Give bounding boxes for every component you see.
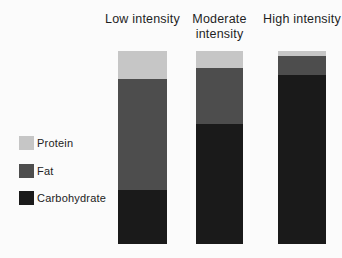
legend-label-carbohydrate: Carbohydrate bbox=[37, 192, 106, 204]
category-label-high-intensity: High intensity bbox=[262, 12, 342, 27]
chart-legend: Protein Fat Carbohydrate bbox=[19, 135, 114, 205]
bar-column-moderate-intensity: Moderate intensity bbox=[196, 12, 243, 244]
legend-label-fat: Fat bbox=[37, 165, 54, 177]
bar-column-high-intensity: High intensity bbox=[278, 12, 326, 244]
energy-substrate-stacked-bar-chart: Protein Fat Carbohydrate Low intensity M… bbox=[0, 0, 342, 258]
bar bbox=[278, 51, 326, 244]
bar-segment-carbohydrate bbox=[278, 75, 326, 244]
carbohydrate-swatch-icon bbox=[19, 191, 34, 205]
bar-segment-fat bbox=[118, 79, 167, 190]
bar-segment-protein bbox=[118, 51, 167, 79]
bar-segment-fat bbox=[278, 56, 326, 75]
bar-column-low-intensity: Low intensity bbox=[118, 12, 167, 244]
protein-swatch-icon bbox=[19, 136, 34, 150]
bar-segment-protein bbox=[196, 51, 243, 68]
legend-item-carbohydrate: Carbohydrate bbox=[19, 190, 106, 205]
bar-segment-fat bbox=[196, 68, 243, 124]
legend-item-protein: Protein bbox=[19, 135, 73, 150]
fat-swatch-icon bbox=[19, 164, 34, 178]
category-label-moderate-intensity: Moderate intensity bbox=[180, 12, 260, 42]
legend-item-fat: Fat bbox=[19, 163, 54, 178]
bar-segment-carbohydrate bbox=[118, 190, 167, 244]
bar-segment-carbohydrate bbox=[196, 124, 243, 244]
legend-label-protein: Protein bbox=[37, 137, 73, 149]
category-label-low-intensity: Low intensity bbox=[103, 12, 183, 27]
bar bbox=[196, 51, 243, 244]
bar bbox=[118, 51, 167, 244]
